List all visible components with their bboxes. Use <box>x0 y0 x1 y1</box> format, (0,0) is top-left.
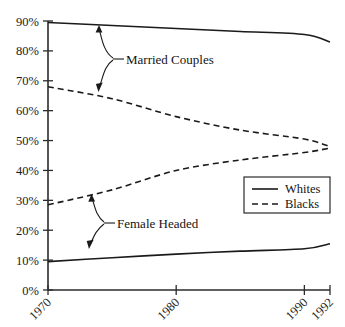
y-tick-label: 0% <box>22 284 39 298</box>
chart-background <box>0 0 345 327</box>
legend-label-blacks: Blacks <box>285 197 319 211</box>
legend[interactable]: Whites Blacks <box>244 177 330 213</box>
family-structure-line-chart: 0%10%20%30%40%50%60%70%80%90% 1970198019… <box>0 0 345 327</box>
y-tick-label: 10% <box>16 254 39 268</box>
married-couples-label: Married Couples <box>126 52 214 67</box>
y-tick-label: 80% <box>16 44 39 58</box>
y-tick-label: 30% <box>16 194 39 208</box>
y-tick-label: 40% <box>16 164 39 178</box>
female-headed-label: Female Headed <box>117 216 199 231</box>
y-tick-label: 60% <box>16 104 39 118</box>
y-tick-label: 50% <box>16 134 39 148</box>
y-tick-label: 90% <box>16 15 39 29</box>
y-tick-label: 70% <box>16 74 39 88</box>
chart-canvas: 0%10%20%30%40%50%60%70%80%90% 1970198019… <box>0 0 345 327</box>
y-tick-label: 20% <box>16 224 39 238</box>
legend-label-whites: Whites <box>285 182 321 196</box>
